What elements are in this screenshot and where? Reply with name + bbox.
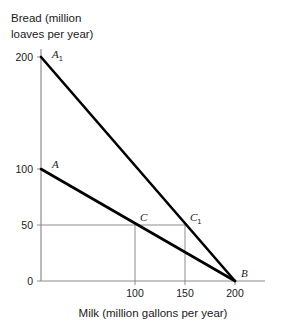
point-label-B: B [241, 267, 248, 279]
y-tick-label-200: 200 [15, 51, 33, 63]
point-label-C: C [140, 211, 148, 223]
point-label-A: A [51, 158, 59, 170]
x-axis-title: Milk (million gallons per year) [79, 307, 228, 319]
point-label-A1-subscript: 1 [59, 54, 63, 63]
chart-background [0, 0, 300, 326]
ppf-chart: Bread (million loaves per year) 200 100 … [0, 0, 300, 326]
y-axis-title-line1: Bread (million [11, 12, 81, 24]
y-axis-title-line2: loaves per year) [11, 28, 94, 40]
chart-canvas: Bread (million loaves per year) 200 100 … [0, 0, 300, 326]
y-tick-label-0: 0 [27, 275, 33, 287]
x-tick-label-100: 100 [126, 287, 144, 299]
y-tick-label-100: 100 [15, 163, 33, 175]
x-tick-label-200: 200 [226, 287, 244, 299]
point-label-C1-subscript: 1 [197, 217, 201, 226]
x-tick-label-150: 150 [176, 287, 194, 299]
y-tick-label-50: 50 [21, 219, 33, 231]
